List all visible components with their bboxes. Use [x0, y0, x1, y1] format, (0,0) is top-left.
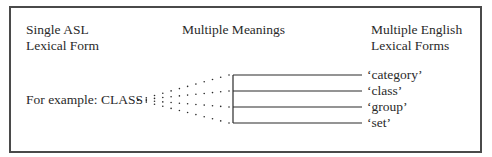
fan-dot: [203, 116, 205, 118]
meaning-bracket: [233, 75, 362, 123]
fan-dot: [203, 81, 205, 83]
fan-dot: [212, 92, 214, 94]
fan-dot: [212, 105, 214, 107]
fan-dot: [170, 90, 172, 92]
fan-dot: [212, 79, 214, 81]
fan-dot: [195, 94, 197, 96]
fan-dot: [179, 102, 181, 104]
fan-dot: [195, 104, 197, 106]
fan-dot: [228, 74, 230, 76]
fan-dot: [179, 95, 181, 97]
fan-dot: [170, 96, 172, 98]
fan-dot: [220, 106, 222, 108]
fan-dot: [220, 120, 222, 122]
fan-dot: [228, 90, 230, 92]
fan-dot: [154, 95, 156, 97]
fan-dot: [220, 91, 222, 93]
fan-dot: [187, 103, 189, 105]
english-form-class: ‘class’: [367, 83, 402, 99]
fan-dot: [220, 77, 222, 79]
fan-dot: [162, 106, 164, 108]
fan-dot: [154, 103, 156, 105]
fan-dot: [179, 110, 181, 112]
english-form-category: ‘category’: [367, 67, 422, 83]
fan-dot: [212, 118, 214, 120]
fan-dot: [146, 101, 148, 103]
fan-dot: [154, 98, 156, 100]
fan-dot: [146, 98, 148, 100]
fan-dot: [187, 94, 189, 96]
fan-dot: [187, 86, 189, 88]
fan-dot: [228, 106, 230, 108]
fan-dot: [162, 101, 164, 103]
fan-dot: [195, 114, 197, 116]
fan-dot: [146, 100, 148, 102]
fan-dot: [162, 97, 164, 99]
fan-dot: [228, 122, 230, 124]
english-form-set: ‘set’: [367, 115, 391, 131]
fan-dot: [137, 99, 139, 101]
english-form-group: ‘group’: [367, 99, 408, 115]
fan-dot: [162, 92, 164, 94]
fan-dot: [187, 112, 189, 114]
fan-dot: [170, 108, 172, 110]
fan-dot: [195, 83, 197, 85]
fan-dot: [154, 101, 156, 103]
fan-dot: [146, 97, 148, 99]
dotted-fan: [137, 74, 230, 124]
fan-dot: [170, 102, 172, 104]
fan-dot: [179, 88, 181, 90]
fan-dot: [203, 93, 205, 95]
fan-dot: [203, 104, 205, 106]
